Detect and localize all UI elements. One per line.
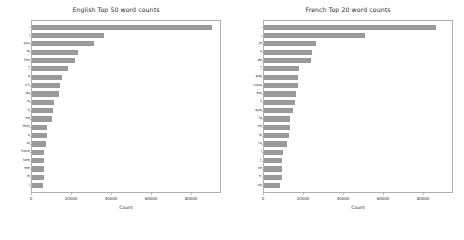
y-axis-tick-label: que bbox=[255, 109, 262, 113]
bar-row: in bbox=[32, 175, 220, 180]
x-axis-tick-label: 80000 bbox=[417, 196, 430, 201]
x-axis-tick-label: 40000 bbox=[105, 196, 118, 201]
bar-row: that bbox=[32, 125, 220, 130]
x-axis-ticks-french: 020000400006000080000 bbox=[263, 193, 453, 205]
bar bbox=[264, 50, 312, 55]
bars-french: .,jeade?pasvousestilquelaneletu!j'cen'un bbox=[264, 21, 452, 192]
x-axis-tick: 40000 bbox=[337, 193, 350, 201]
x-axis-tick-label: 40000 bbox=[337, 196, 350, 201]
bar-row: je bbox=[264, 41, 452, 46]
y-tick-mark bbox=[262, 69, 264, 70]
x-axis-tick-label: 60000 bbox=[377, 196, 390, 201]
x-axis-label-english: Count bbox=[31, 205, 221, 210]
y-tick-mark bbox=[262, 111, 264, 112]
bar-row: is bbox=[32, 100, 220, 105]
y-axis-tick-label: ! bbox=[29, 184, 30, 188]
x-axis-tick: 80000 bbox=[417, 193, 430, 201]
bar bbox=[264, 91, 296, 96]
bar-row: 's bbox=[32, 133, 220, 138]
bar bbox=[264, 108, 293, 113]
bar-row: ne bbox=[264, 125, 452, 130]
bar bbox=[32, 175, 44, 180]
x-axis-tick-label: 60000 bbox=[145, 196, 158, 201]
y-tick-mark bbox=[30, 61, 32, 62]
x-tick-mark bbox=[71, 193, 72, 195]
bar-row: have bbox=[32, 150, 220, 155]
bar bbox=[264, 133, 289, 138]
bar bbox=[264, 58, 311, 63]
y-axis-tick-label: , bbox=[261, 34, 262, 38]
bar-row: , bbox=[264, 33, 452, 38]
y-axis-tick-label: . bbox=[261, 25, 262, 29]
y-axis-tick-label: you bbox=[23, 42, 30, 46]
y-axis-tick-label: to bbox=[26, 50, 30, 54]
y-axis-tick-label: ? bbox=[260, 67, 262, 71]
y-axis-tick-label: that bbox=[23, 125, 30, 129]
y-tick-mark bbox=[30, 152, 32, 153]
bar bbox=[32, 150, 44, 155]
y-tick-mark bbox=[30, 102, 32, 103]
y-tick-mark bbox=[30, 186, 32, 187]
bar bbox=[32, 183, 43, 188]
x-axis-ticks-english: 020000400006000080000 bbox=[31, 193, 221, 205]
x-tick-mark bbox=[383, 193, 384, 195]
y-tick-mark bbox=[262, 44, 264, 45]
bar bbox=[32, 125, 47, 130]
bar-row: he bbox=[32, 116, 220, 121]
x-tick-mark bbox=[423, 193, 424, 195]
y-tick-mark bbox=[30, 127, 32, 128]
y-tick-mark bbox=[262, 136, 264, 137]
bar bbox=[32, 108, 53, 113]
bar bbox=[32, 166, 44, 171]
bar-row: ! bbox=[32, 183, 220, 188]
y-tick-mark bbox=[262, 144, 264, 145]
bar bbox=[32, 100, 54, 105]
y-tick-mark bbox=[262, 86, 264, 87]
bar bbox=[32, 133, 47, 138]
y-tick-mark bbox=[30, 136, 32, 137]
bars-english: ,iyoutothe?an'tdoisithethat'sofhavetomme… bbox=[32, 21, 220, 192]
bar-row: n' bbox=[264, 175, 452, 180]
y-tick-mark bbox=[262, 52, 264, 53]
x-axis-tick: 60000 bbox=[377, 193, 390, 201]
bar-row: a bbox=[32, 75, 220, 80]
y-tick-mark bbox=[30, 52, 32, 53]
bar bbox=[32, 25, 212, 30]
bar bbox=[264, 41, 316, 46]
bar-row: tom bbox=[32, 158, 220, 163]
y-axis-tick-label: est bbox=[257, 92, 263, 96]
y-axis-tick-label: ! bbox=[261, 151, 262, 155]
y-axis-tick-label: je bbox=[259, 42, 262, 46]
bar bbox=[264, 175, 282, 180]
bar bbox=[32, 66, 68, 71]
bar-row: of bbox=[32, 141, 220, 146]
y-tick-mark bbox=[30, 36, 32, 37]
x-tick-mark bbox=[343, 193, 344, 195]
y-axis-tick-label: it bbox=[28, 109, 30, 113]
bar-row: ? bbox=[32, 66, 220, 71]
x-axis-tick-label: 20000 bbox=[65, 196, 78, 201]
bar-row: , bbox=[32, 24, 220, 29]
bar-row: pas bbox=[264, 75, 452, 80]
y-tick-mark bbox=[30, 111, 32, 112]
plot-area-english: ,iyoutothe?an'tdoisithethat'sofhavetomme… bbox=[31, 20, 221, 193]
bar-row: ? bbox=[264, 66, 452, 71]
y-axis-tick-label: tu bbox=[258, 142, 262, 146]
y-axis-tick-label: have bbox=[21, 151, 30, 155]
y-axis-tick-label: de bbox=[258, 59, 263, 63]
y-tick-mark bbox=[30, 27, 32, 28]
y-axis-tick-label: in bbox=[27, 176, 30, 180]
y-tick-mark bbox=[30, 119, 32, 120]
bar bbox=[32, 75, 62, 80]
bar-row: it bbox=[32, 108, 220, 113]
bar bbox=[264, 141, 287, 146]
x-axis-tick: 20000 bbox=[65, 193, 78, 201]
x-axis-tick: 0 bbox=[262, 193, 265, 201]
y-tick-mark bbox=[262, 161, 264, 162]
bar bbox=[264, 150, 283, 155]
y-axis-tick-label: of bbox=[27, 142, 30, 146]
y-tick-mark bbox=[262, 186, 264, 187]
bar bbox=[32, 41, 94, 46]
y-axis-tick-label: la bbox=[259, 117, 262, 121]
bar-row: i bbox=[32, 33, 220, 38]
